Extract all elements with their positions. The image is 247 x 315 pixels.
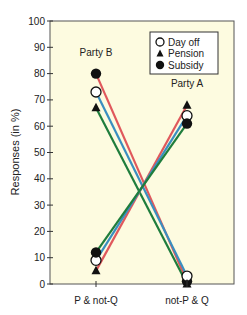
data-point-5-1	[182, 118, 192, 128]
y-tick-label: 20	[34, 226, 46, 237]
data-point-0-0	[91, 68, 101, 78]
y-tick-label: 80	[34, 68, 46, 79]
y-tick-label: 50	[34, 147, 46, 158]
x-tick-label: P & not-Q	[74, 295, 118, 306]
legend-marker	[156, 38, 164, 46]
legend: Day offPensionSubsidy	[150, 32, 218, 74]
y-tick-label: 40	[34, 173, 46, 184]
y-tick-label: 10	[34, 252, 46, 263]
y-tick-label: 90	[34, 42, 46, 53]
annotation-label: Party A	[171, 78, 204, 89]
y-ticks: 0102030405060708090100	[28, 16, 53, 290]
annotation-label: Party B	[80, 47, 113, 58]
y-axis-title: Responses (in %)	[9, 109, 21, 196]
y-tick-label: 0	[39, 279, 45, 290]
legend-label: Subsidy	[168, 60, 204, 71]
data-point-5-0	[91, 247, 101, 257]
y-tick-label: 30	[34, 200, 46, 211]
legend-marker	[156, 61, 164, 69]
y-tick-label: 70	[34, 94, 46, 105]
y-tick-label: 100	[28, 16, 45, 27]
chart: 0102030405060708090100 P & not-Qnot-P & …	[0, 0, 247, 315]
y-tick-label: 60	[34, 121, 46, 132]
data-point-1-0	[91, 87, 101, 97]
legend-label: Day off	[168, 37, 200, 48]
legend-label: Pension	[168, 48, 204, 59]
x-tick-label: not-P & Q	[165, 295, 209, 306]
